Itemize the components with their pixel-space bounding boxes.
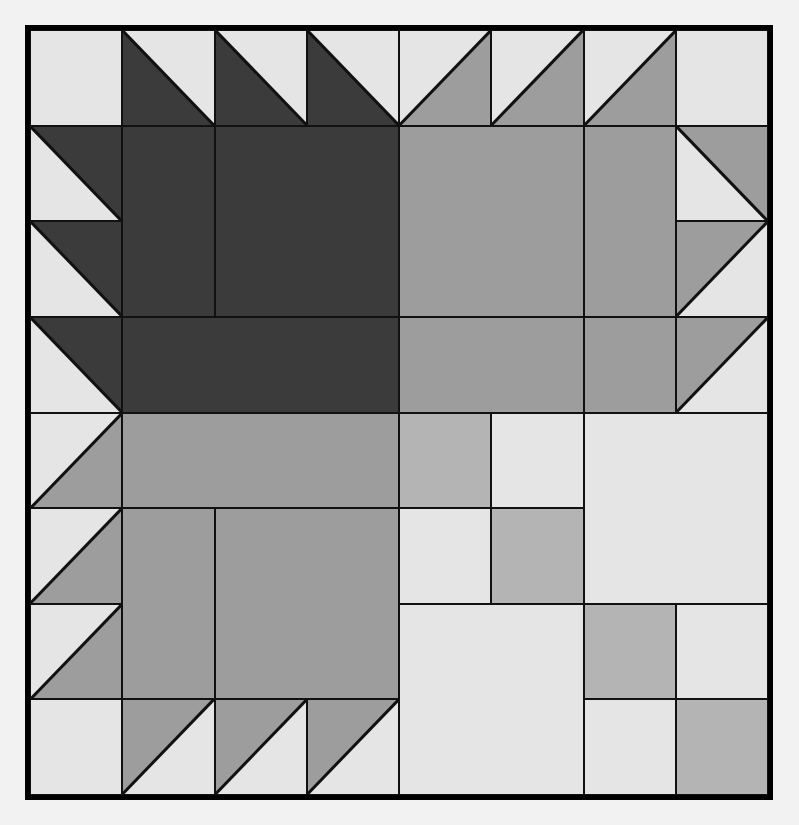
r6c3-block-medium-base [215,508,400,699]
r4c8-hst-medium-diagonal-line [676,317,768,413]
r1c4-hst-dark [307,30,399,126]
r2c2-rect-dark [122,126,214,317]
r1c2-hst-dark [122,30,214,126]
r6c2-rect-medium-base [122,508,214,699]
quilt-border-frame: EDDDCDDFEDFCECED [25,25,773,800]
r1c1-square-light-base [30,30,122,126]
r8c3-hst-medium-diagonal-line [215,699,307,795]
r1c6-hst-medium-diagonal-line [491,30,583,126]
r4c8-hst-medium [676,317,768,413]
r1c4-hst-dark-diagonal-line [307,30,399,126]
r7c7-square-medium-light [584,604,676,700]
r4c1-hst-dark [30,317,122,413]
r4c5-rect-medium [399,317,584,413]
r2c7-rect-medium-base [584,126,676,317]
r4c5-rect-medium-base [399,317,584,413]
r6c5-square-light [399,508,491,604]
r6c5-square-light-base [399,508,491,604]
r8c4-hst-medium [307,699,399,795]
r1c6-hst-medium [491,30,583,126]
r2c1-hst-dark [30,126,122,222]
r8c2-hst-medium-diagonal-line [122,699,214,795]
r1c3-hst-dark-diagonal-line [215,30,307,126]
r1c7-hst-medium-diagonal-line [584,30,676,126]
r2c3-block-dark [215,126,400,317]
r4c1-hst-dark-diagonal-line [30,317,122,413]
r5c6-square-light [491,413,583,509]
r3c1-hst-dark [30,221,122,317]
r1c3-hst-dark [215,30,307,126]
r1c1-square-light [30,30,122,126]
r1c8-square-light-base [676,30,768,126]
r6c6-square-medium-light-base [491,508,583,604]
r2c8-hst-medium-diagonal-line [676,126,768,222]
r8c8-square-medium-light-base [676,699,768,795]
r1c7-hst-medium [584,30,676,126]
r4c7-square-medium-base [584,317,676,413]
quilt-grid: EDDDCDDFEDFCECED [30,30,768,795]
r5c1-hst-medium-diagonal-line [30,413,122,509]
r6c1-hst-medium [30,508,122,604]
r7c1-hst-medium-diagonal-line [30,604,122,700]
r4c2-block-dark-base [122,317,399,413]
r4c2-block-dark [122,317,399,413]
r4c7-square-medium [584,317,676,413]
r2c2-rect-dark-base [122,126,214,317]
r3c8-hst-medium [676,221,768,317]
r8c1-square-light [30,699,122,795]
r5c2-rect-medium-base [122,413,399,509]
r2c7-rect-medium [584,126,676,317]
r2c1-hst-dark-diagonal-line [30,126,122,222]
r6c1-hst-medium-diagonal-line [30,508,122,604]
r8c3-hst-medium [215,699,307,795]
r2c3-block-dark-base [215,126,400,317]
r7c7-square-medium-light-base [584,604,676,700]
r6c6-square-medium-light [491,508,583,604]
quilt-diagram: EDDDCDDFEDFCECED [0,0,799,825]
r8c4-hst-medium-diagonal-line [307,699,399,795]
r2c8-hst-medium [676,126,768,222]
r5c5-square-medium-light-base [399,413,491,509]
r8c7-square-light-base [584,699,676,795]
r8c8-square-medium-light [676,699,768,795]
r5c2-rect-medium [122,413,399,509]
r5c5-square-medium-light [399,413,491,509]
r1c2-hst-dark-diagonal-line [122,30,214,126]
r5c7-block-light-base [584,413,769,604]
r2c5-block-medium-base [399,126,584,317]
r8c2-hst-medium [122,699,214,795]
r2c5-block-medium [399,126,584,317]
r5c6-square-light-base [491,413,583,509]
r6c3-block-medium [215,508,400,699]
r3c1-hst-dark-diagonal-line [30,221,122,317]
r3c8-hst-medium-diagonal-line [676,221,768,317]
r8c1-square-light-base [30,699,122,795]
r7c8-square-light-base [676,604,768,700]
r7c8-square-light [676,604,768,700]
r5c7-block-light [584,413,769,604]
r5c1-hst-medium [30,413,122,509]
r1c5-hst-medium [399,30,491,126]
r8c7-square-light [584,699,676,795]
r6c2-rect-medium [122,508,214,699]
r7c5-block-light [399,604,584,795]
r1c5-hst-medium-diagonal-line [399,30,491,126]
r1c8-square-light [676,30,768,126]
r7c5-block-light-base [399,604,584,795]
r7c1-hst-medium [30,604,122,700]
